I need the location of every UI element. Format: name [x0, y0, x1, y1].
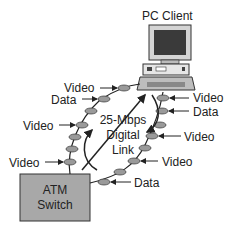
link-label-line3: Link	[93, 143, 153, 158]
right-label-video-3: Video	[162, 156, 192, 169]
left-label-video-2: Video	[23, 120, 53, 133]
atm-switch-label-line1: ATM	[20, 183, 90, 198]
atm-switch-label-line2: Switch	[20, 198, 90, 213]
right-label-video-2: Video	[184, 131, 214, 144]
pc-client-icon	[137, 25, 195, 90]
pc-client-label: PC Client	[142, 10, 193, 23]
right-label-data-1: Data	[193, 106, 218, 119]
right-label-video-1: Video	[193, 92, 223, 105]
link-label-line1: 25-Mbps	[93, 113, 153, 128]
right-label-data-2: Data	[134, 177, 159, 190]
link-label-line2: Digital	[93, 128, 153, 143]
left-label-data-1: Data	[51, 94, 76, 107]
left-label-video-3: Video	[9, 157, 39, 170]
